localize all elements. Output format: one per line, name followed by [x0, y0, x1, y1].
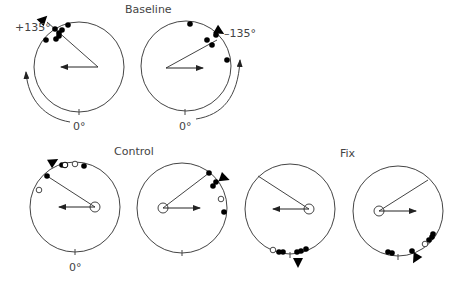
target-triangle-marker — [47, 155, 61, 169]
open-data-point — [422, 241, 428, 247]
filled-data-point — [206, 170, 212, 176]
filled-data-point — [44, 173, 50, 179]
filled-data-point — [430, 231, 436, 237]
filled-data-point — [224, 57, 230, 63]
radial-line — [258, 176, 309, 209]
open-data-point — [72, 161, 78, 167]
filled-data-point — [389, 250, 395, 256]
filled-data-point — [52, 26, 58, 32]
angle-label-zero-baseline-left: 0° — [73, 120, 86, 133]
group-title-baseline: Baseline — [125, 3, 172, 16]
panel-control-right — [137, 163, 231, 256]
circular-statistics-figure: Baseline Control Fix +135° –135° 0° 0° 0… — [0, 0, 460, 286]
filled-data-point — [53, 36, 59, 42]
ccw-rotation-arrow-arc — [26, 72, 70, 122]
filled-data-point — [65, 22, 71, 28]
open-data-point — [36, 187, 42, 193]
open-data-point — [62, 162, 68, 168]
filled-data-point — [43, 37, 49, 43]
target-triangle-marker — [219, 172, 232, 185]
filled-data-point — [209, 42, 215, 48]
angle-label-minus-135: –135° — [224, 27, 256, 40]
filled-data-point — [303, 246, 309, 252]
filled-data-point — [213, 179, 219, 185]
filled-data-point — [59, 27, 65, 33]
panels-layer — [30, 12, 443, 268]
filled-data-point — [280, 249, 286, 255]
radial-line — [163, 173, 209, 208]
angle-label-plus-135: +135° — [15, 21, 51, 34]
angle-label-zero-baseline-right: 0° — [179, 120, 192, 133]
panel-fix-right — [353, 166, 443, 266]
panel-fix-left — [245, 164, 335, 268]
panel-control-left — [30, 155, 120, 255]
filled-data-point — [81, 163, 87, 169]
open-data-point — [218, 196, 224, 202]
filled-data-point — [221, 209, 227, 215]
target-triangle-marker — [293, 258, 303, 268]
panel-baseline-right — [141, 21, 231, 115]
open-data-point — [270, 247, 276, 253]
filled-data-point — [187, 21, 193, 27]
cw-rotation-arrow-arc — [196, 60, 240, 119]
filled-data-point — [298, 248, 304, 254]
angle-label-zero-control-left: 0° — [69, 261, 82, 274]
group-title-fix: Fix — [340, 147, 356, 160]
radial-line — [379, 180, 428, 211]
group-title-control: Control — [114, 145, 154, 158]
radial-line — [47, 176, 95, 207]
filled-data-point — [204, 37, 210, 43]
